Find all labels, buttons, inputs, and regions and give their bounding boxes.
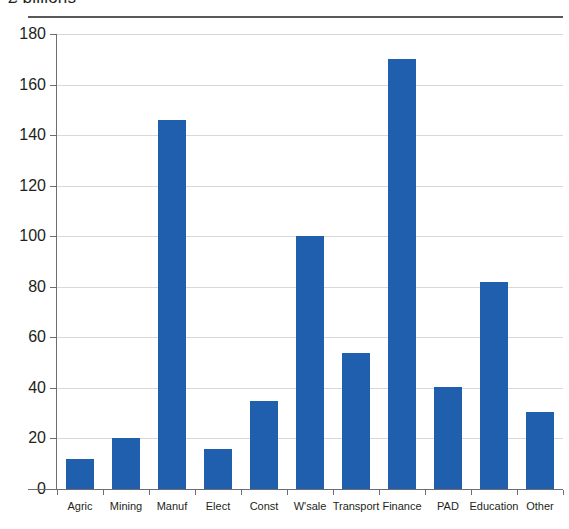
x-axis-tick-mark xyxy=(379,490,380,495)
x-axis-category-label: Education xyxy=(470,500,519,513)
x-axis-tick-mark xyxy=(563,490,564,495)
bar-chart: £ billions 020406080100120140160180 Agri… xyxy=(0,0,569,529)
bar xyxy=(112,438,140,489)
x-axis-tick-mark xyxy=(517,490,518,495)
bar xyxy=(480,282,508,489)
y-axis-tick-labels: 020406080100120140160180 xyxy=(0,0,46,529)
x-axis-line xyxy=(28,489,563,490)
y-axis-tick-label: 160 xyxy=(4,77,46,93)
y-axis-tick-mark xyxy=(50,135,57,136)
x-axis-tick-mark xyxy=(425,490,426,495)
x-axis-category-label: Const xyxy=(250,500,279,513)
x-axis-category-label: Mining xyxy=(110,500,142,513)
y-axis-tick-label: 180 xyxy=(4,26,46,42)
bar xyxy=(342,353,370,490)
y-axis-tick-mark xyxy=(50,388,57,389)
x-axis-tick-mark xyxy=(241,490,242,495)
y-axis-tick-label: 80 xyxy=(4,279,46,295)
bar xyxy=(434,387,462,489)
x-axis-tick-mark xyxy=(287,490,288,495)
x-axis-category-label: Transport xyxy=(333,500,380,513)
x-axis-tick-mark xyxy=(103,490,104,495)
x-axis-category-label: Finance xyxy=(382,500,421,513)
bar xyxy=(250,401,278,489)
bar xyxy=(66,459,94,489)
bar xyxy=(526,412,554,489)
y-axis-tick-label: 60 xyxy=(4,329,46,345)
x-axis-category-label: Agric xyxy=(67,500,92,513)
y-axis-tick-label: 140 xyxy=(4,127,46,143)
bar xyxy=(158,120,186,489)
y-axis-tick-mark xyxy=(50,186,57,187)
x-axis-tick-mark xyxy=(333,490,334,495)
y-axis-tick-label: 100 xyxy=(4,228,46,244)
y-axis-tick-mark xyxy=(50,287,57,288)
y-axis-tick-label: 40 xyxy=(4,380,46,396)
bar xyxy=(296,236,324,489)
y-axis-tick-mark xyxy=(50,236,57,237)
x-axis-tick-mark xyxy=(57,490,58,495)
x-axis-category-label: W'sale xyxy=(294,500,327,513)
y-axis-tick-mark xyxy=(50,489,57,490)
x-axis-category-label: Elect xyxy=(206,500,230,513)
x-axis-tick-mark xyxy=(149,490,150,495)
y-axis-tick-label: 20 xyxy=(4,430,46,446)
plot-area xyxy=(57,34,563,489)
gridline xyxy=(57,135,563,136)
plot-top-rule xyxy=(28,16,563,18)
bar xyxy=(388,59,416,489)
gridline xyxy=(57,186,563,187)
y-axis-tick-label: 120 xyxy=(4,178,46,194)
x-axis-category-label: PAD xyxy=(437,500,459,513)
y-axis-tick-mark xyxy=(50,337,57,338)
y-axis-tick-mark xyxy=(50,85,57,86)
x-axis-tick-mark xyxy=(471,490,472,495)
gridline xyxy=(57,85,563,86)
gridline xyxy=(57,34,563,35)
y-axis-tick-mark xyxy=(50,438,57,439)
x-axis-tick-mark xyxy=(195,490,196,495)
bar xyxy=(204,449,232,489)
x-axis-category-label: Manuf xyxy=(157,500,188,513)
y-axis-tick-mark xyxy=(50,34,57,35)
x-axis-category-label: Other xyxy=(526,500,554,513)
